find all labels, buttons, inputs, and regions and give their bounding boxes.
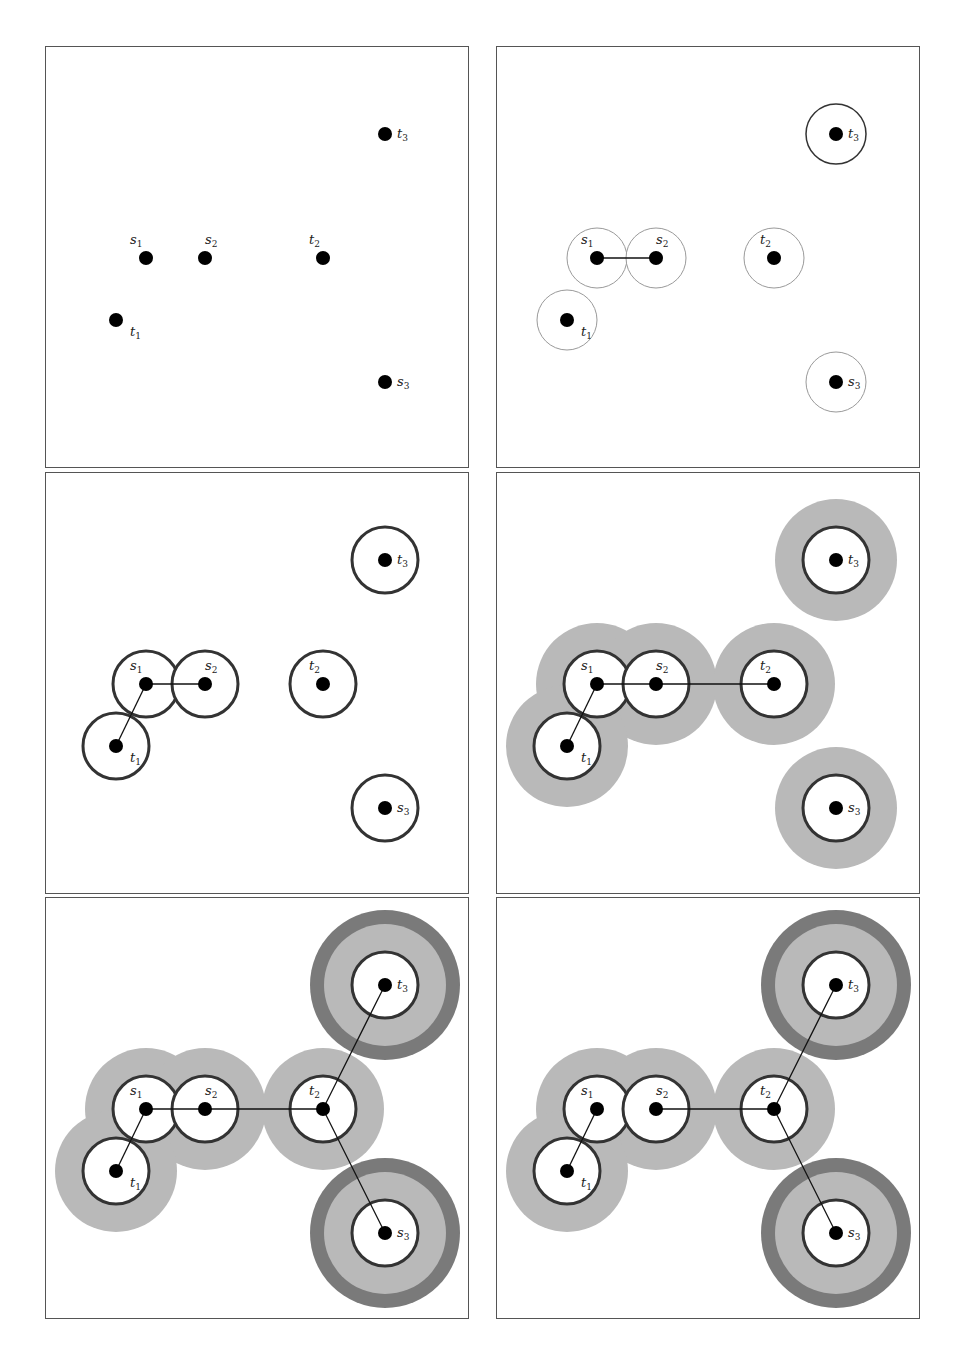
label-s1: s1	[130, 232, 142, 249]
panel-4: s1s2t2t1t3s3	[496, 472, 920, 894]
point-s1	[139, 251, 153, 265]
point-t1	[109, 739, 123, 753]
panel-canvas: s1s2t2t1t3s3	[497, 47, 921, 469]
panel-canvas: s1s2t2t1t3s3	[46, 473, 470, 895]
panel-canvas: s1s2t2t1t3s3	[46, 898, 470, 1320]
point-s2	[198, 677, 212, 691]
point-t1	[109, 1164, 123, 1178]
point-t1	[560, 1164, 574, 1178]
point-s2	[649, 251, 663, 265]
point-s3	[378, 801, 392, 815]
panel-3: s1s2t2t1t3s3	[45, 472, 469, 894]
point-t2	[316, 677, 330, 691]
point-s1	[590, 251, 604, 265]
point-t3	[829, 127, 843, 141]
label-t1: t1	[130, 324, 141, 341]
panel-canvas: s1s2t2t1t3s3	[497, 898, 921, 1320]
point-s2	[198, 251, 212, 265]
point-t2	[767, 251, 781, 265]
point-t1	[109, 313, 123, 327]
point-t2	[767, 677, 781, 691]
point-s3	[829, 801, 843, 815]
point-t2	[316, 1102, 330, 1116]
panel-6: s1s2t2t1t3s3	[496, 897, 920, 1319]
point-s3	[829, 375, 843, 389]
point-t3	[378, 127, 392, 141]
label-s2: s2	[205, 232, 217, 249]
label-t2: t2	[309, 232, 320, 249]
point-t3	[378, 978, 392, 992]
panel-1: s1s2t2t1t3s3	[45, 46, 469, 468]
point-s2	[649, 1102, 663, 1116]
point-s1	[139, 1102, 153, 1116]
panel-5: s1s2t2t1t3s3	[45, 897, 469, 1319]
label-s3: s3	[397, 374, 410, 391]
point-s3	[829, 1226, 843, 1240]
point-s1	[139, 677, 153, 691]
panel-canvas: s1s2t2t1t3s3	[497, 473, 921, 895]
point-t2	[767, 1102, 781, 1116]
point-t3	[829, 553, 843, 567]
point-s1	[590, 677, 604, 691]
point-s3	[378, 375, 392, 389]
panel-canvas: s1s2t2t1t3s3	[46, 47, 470, 469]
point-s2	[649, 677, 663, 691]
point-t1	[560, 313, 574, 327]
label-t3: t3	[397, 126, 408, 143]
point-t2	[316, 251, 330, 265]
point-s1	[590, 1102, 604, 1116]
point-s3	[378, 1226, 392, 1240]
point-t3	[378, 553, 392, 567]
point-t1	[560, 739, 574, 753]
panel-2: s1s2t2t1t3s3	[496, 46, 920, 468]
point-t3	[829, 978, 843, 992]
point-s2	[198, 1102, 212, 1116]
